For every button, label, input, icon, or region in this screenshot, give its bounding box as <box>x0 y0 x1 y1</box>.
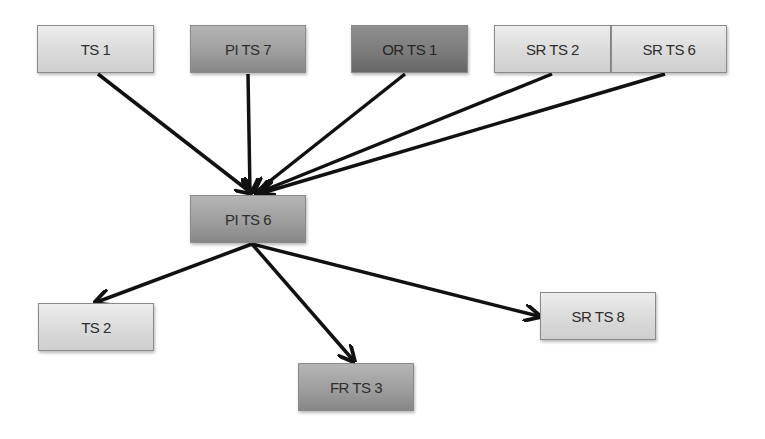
node-frts3: FR TS 3 <box>298 363 414 411</box>
node-label: OR TS 1 <box>382 41 437 58</box>
node-label: TS 2 <box>81 319 111 336</box>
node-label: PI TS 6 <box>225 211 271 228</box>
node-ts1: TS 1 <box>37 25 154 73</box>
node-label: SR TS 6 <box>643 41 696 58</box>
node-ts2: TS 2 <box>38 303 154 351</box>
arrow-ts1-to-pits6 <box>98 74 250 192</box>
node-srts8: SR TS 8 <box>540 292 656 340</box>
arrow-srts6-to-pits6 <box>262 74 665 193</box>
arrow-pits7-to-pits6 <box>248 74 250 192</box>
node-label: SR TS 2 <box>526 41 579 58</box>
arrow-pits6-to-frts3 <box>252 244 353 360</box>
node-label: FR TS 3 <box>330 379 382 396</box>
node-pits7: PI TS 7 <box>190 25 306 73</box>
node-label: SR TS 8 <box>572 308 625 325</box>
arrow-srts2-to-pits6 <box>260 74 552 192</box>
arrow-pits6-to-srts8 <box>252 244 538 316</box>
node-orts1: OR TS 1 <box>351 25 468 73</box>
node-srts6: SR TS 6 <box>611 25 727 73</box>
node-srts2: SR TS 2 <box>494 25 611 73</box>
node-label: TS 1 <box>81 41 111 58</box>
arrow-pits6-to-ts2 <box>97 244 252 302</box>
node-pits6: PI TS 6 <box>190 195 306 243</box>
node-label: PI TS 7 <box>225 41 271 58</box>
